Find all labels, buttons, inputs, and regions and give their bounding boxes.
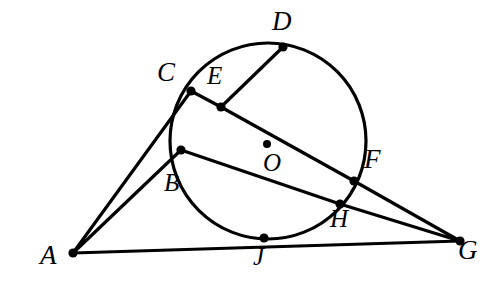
segment-E-D [221,47,283,107]
point-label-c: C [157,59,175,86]
point-dot-f [349,176,358,185]
point-label-e: E [207,63,222,88]
segment-A-B [73,150,181,253]
segment-B-H [181,150,340,204]
segment-H-G [340,204,460,241]
point-dot-j [259,233,268,242]
point-label-a: A [40,242,57,269]
point-label-d: D [272,8,292,35]
point-label-g: G [458,237,478,264]
geometry-diagram: ABCDEFGHJ O [0,0,489,305]
point-dot-c [186,86,195,95]
point-dot-b [176,145,185,154]
point-dot-e [216,102,225,111]
segment-F-G [354,181,460,241]
point-label-j: J [253,244,264,269]
point-dot-d [278,42,287,51]
point-label-h: H [330,206,348,231]
point-label-b: B [164,170,179,195]
point-label-f: F [364,146,381,173]
circle-center-dot [263,140,271,148]
center-label-O: O [263,150,281,175]
figure-canvas [0,0,489,305]
point-dot-a [68,248,77,257]
segment-C-E [191,91,221,107]
segment-A-G [73,241,460,253]
